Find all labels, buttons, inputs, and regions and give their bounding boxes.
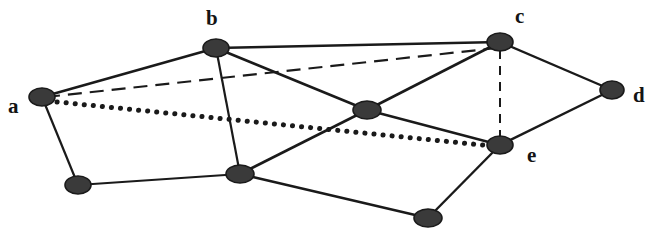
graph-node-b [203,39,229,57]
graph-edge-c-n1 [367,42,500,110]
graph-node-d [600,81,624,99]
graph-canvas [0,0,665,236]
graph-edge-n1-n3 [240,110,367,174]
node-label-b: b [206,8,218,29]
graph-edge-e-n1 [367,110,500,145]
graph-node-e [487,136,513,154]
graph-node-a [29,88,55,106]
node-label-a: a [8,96,19,117]
graph-edge-a-e [48,101,492,146]
graph-node [353,101,381,119]
graph-node [65,176,91,194]
node-label-c: c [515,6,524,27]
graph-edge-n2-n3 [78,174,240,185]
edge-layer [42,42,612,218]
graph-edge-a-b [42,48,216,97]
node-label-d: d [633,85,645,106]
graph-edge-c-d [500,42,612,90]
graph-edge-n3-n4 [240,174,428,218]
graph-node-c [487,33,513,51]
graph-node [414,209,442,227]
graph-diagram-figure: abcde [0,0,665,236]
graph-edge-b-n1 [216,48,367,110]
graph-edge-a-c [46,48,497,97]
graph-edge-b-n3 [216,48,240,174]
graph-edge-a-n2 [42,97,78,185]
graph-edge-d-e [500,90,612,145]
graph-node [226,165,254,183]
graph-edge-e-n4 [428,145,500,218]
node-label-e: e [527,145,536,166]
graph-edge-b-c [216,42,500,48]
